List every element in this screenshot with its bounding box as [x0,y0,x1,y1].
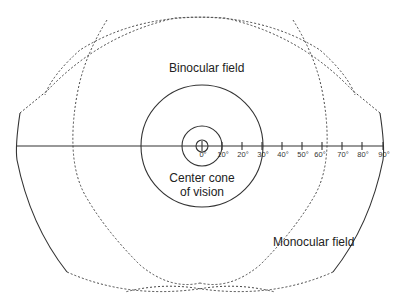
tick-label-0: 0° [199,150,206,159]
tick-label-20: 20° [237,150,248,159]
center-cone-label: Center cone of vision [169,172,234,200]
tick-label-50: 50° [297,150,308,159]
tick-label-90: 90° [378,150,389,159]
center-cone-line-1: Center cone [169,172,234,186]
tick-label-70: 70° [337,150,348,159]
tick-label-30: 30° [257,150,268,159]
tick-label-80: 80° [357,150,368,159]
binocular-left-boundary [73,20,200,285]
tick-label-40: 40° [277,150,288,159]
outer-left-solid-arc [16,113,67,272]
center-cone-line-2: of vision [169,186,234,200]
tick-label-60: 60° [314,150,325,159]
binocular-field-label: Binocular field [169,62,244,76]
tick-label-10: 10° [217,150,228,159]
monocular-field-label: Monocular field [273,236,354,250]
